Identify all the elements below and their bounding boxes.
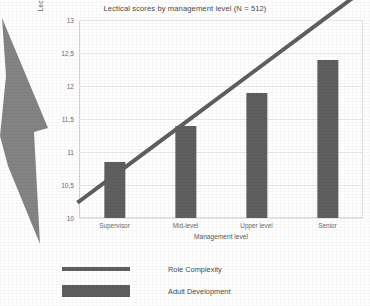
chart-figure: Lectical scores by management level (N =… xyxy=(0,0,370,306)
legend-item-role-complexity: Role Complexity xyxy=(62,258,322,280)
x-axis-title: Management level xyxy=(79,233,363,240)
chart-title: Lectical scores by management level (N =… xyxy=(0,4,370,13)
legend-item-adult-development: Adult Development xyxy=(62,280,322,302)
legend-swatch-line-icon xyxy=(62,267,130,271)
role-complexity-line xyxy=(79,0,363,201)
x-axis-tick-label: Senior xyxy=(318,222,336,229)
decorative-arrow-shape xyxy=(0,16,50,246)
legend-swatch-bar-icon xyxy=(62,285,130,297)
y-axis-tick-label: 10,5 xyxy=(61,182,74,189)
x-axis-tick-label: Supervisor xyxy=(99,222,130,229)
chart-legend: Role Complexity Adult Development xyxy=(62,258,322,302)
y-axis-title: Lectical score xyxy=(37,0,44,26)
y-axis-tick-label: 12 xyxy=(67,83,74,90)
trend-line-group xyxy=(79,20,363,218)
gridline xyxy=(79,218,363,219)
x-axis-tick-label: Mid-level xyxy=(173,222,199,229)
y-axis-tick-label: 13 xyxy=(67,17,74,24)
y-axis-tick-label: 10 xyxy=(67,215,74,222)
y-axis-tick-label: 11 xyxy=(67,149,74,156)
y-axis-tick-label: 11,5 xyxy=(62,116,74,123)
y-axis-tick-label: 12,5 xyxy=(61,50,74,57)
x-axis-tick-label: Upper level xyxy=(240,222,272,229)
legend-label-adult-development: Adult Development xyxy=(168,287,230,296)
legend-label-role-complexity: Role Complexity xyxy=(168,265,222,274)
plot-area: Lectical score 1010,51111,51212,513 Supe… xyxy=(79,20,363,218)
